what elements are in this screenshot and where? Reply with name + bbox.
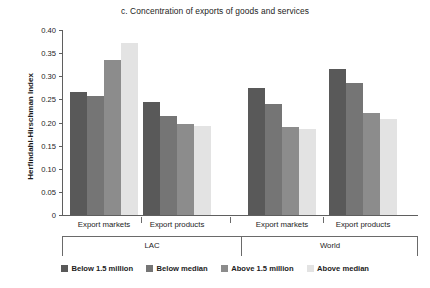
y-axis-tick-mark bbox=[59, 76, 62, 77]
bar bbox=[299, 129, 316, 215]
bar bbox=[87, 96, 104, 215]
bar bbox=[380, 119, 397, 215]
bar bbox=[265, 104, 282, 215]
legend-swatch-icon bbox=[221, 265, 228, 272]
legend-label: Below 1.5 million bbox=[71, 264, 133, 273]
legend-swatch-icon bbox=[146, 265, 153, 272]
bar bbox=[104, 60, 121, 215]
bar bbox=[248, 88, 265, 215]
x-axis-divider bbox=[323, 217, 324, 223]
y-axis-tick-mark bbox=[59, 169, 62, 170]
y-axis-tick-mark bbox=[59, 53, 62, 54]
bar bbox=[121, 43, 138, 215]
x-axis-line bbox=[62, 215, 418, 216]
y-axis-tick-label: 0.05 bbox=[2, 187, 62, 196]
legend-swatch-icon bbox=[307, 265, 314, 272]
bar bbox=[70, 92, 87, 215]
legend-item[interactable]: Below 1.5 million bbox=[61, 264, 133, 273]
chart-legend: Below 1.5 millionBelow medianAbove 1.5 m… bbox=[0, 264, 430, 273]
legend-label: Above median bbox=[317, 264, 369, 273]
bar bbox=[177, 124, 194, 215]
x-axis-divider bbox=[141, 217, 142, 223]
y-axis-tick-mark bbox=[59, 99, 62, 100]
x-axis-group-label: LAC bbox=[63, 241, 241, 250]
bar-group bbox=[143, 30, 211, 215]
x-axis-group-label: World bbox=[241, 241, 419, 250]
y-axis-tick-mark bbox=[59, 215, 62, 216]
x-axis-category-labels: Export marketsExport productsExport mark… bbox=[62, 217, 418, 237]
y-axis-tick-label: 0.25 bbox=[2, 95, 62, 104]
y-axis-tick-mark bbox=[59, 146, 62, 147]
y-axis-tick-mark bbox=[59, 30, 62, 31]
legend-item[interactable]: Below median bbox=[146, 264, 208, 273]
legend-item[interactable]: Above 1.5 million bbox=[221, 264, 294, 273]
x-axis-divider bbox=[230, 217, 231, 223]
y-axis-tick-label: 0.40 bbox=[2, 26, 62, 35]
bar bbox=[363, 113, 380, 215]
y-axis-tick-mark bbox=[59, 123, 62, 124]
y-axis-tick-label: 0.20 bbox=[2, 118, 62, 127]
y-axis-tick-mark bbox=[59, 192, 62, 193]
chart-title: c. Concentration of exports of goods and… bbox=[0, 6, 430, 16]
bar-group bbox=[70, 30, 138, 215]
x-axis-category-label: Export products bbox=[132, 220, 222, 229]
legend-label: Below median bbox=[157, 264, 208, 273]
y-axis-tick-label: 0.35 bbox=[2, 49, 62, 58]
bar bbox=[160, 116, 177, 215]
legend-label: Above 1.5 million bbox=[231, 264, 293, 273]
bar bbox=[143, 102, 160, 215]
chart-figure: c. Concentration of exports of goods and… bbox=[0, 0, 430, 288]
plot-area: 00.050.100.150.200.250.300.350.40 bbox=[62, 30, 418, 216]
legend-swatch-icon bbox=[61, 265, 68, 272]
x-axis-category-label: Export markets bbox=[237, 220, 327, 229]
bar bbox=[194, 126, 211, 215]
y-axis-tick-label: 0.15 bbox=[2, 141, 62, 150]
bar bbox=[346, 83, 363, 215]
y-axis-line bbox=[62, 30, 63, 216]
x-axis-group-separator bbox=[241, 237, 242, 256]
y-axis-tick-label: 0.10 bbox=[2, 164, 62, 173]
legend-item[interactable]: Above median bbox=[307, 264, 369, 273]
x-axis-category-label: Export products bbox=[318, 220, 408, 229]
y-axis-tick-label: 0 bbox=[2, 211, 62, 220]
x-axis-group-labels: LACWorld bbox=[62, 236, 418, 256]
bar-group bbox=[248, 30, 316, 215]
bar-group bbox=[329, 30, 397, 215]
bar bbox=[329, 69, 346, 215]
y-axis-tick-label: 0.30 bbox=[2, 72, 62, 81]
bar bbox=[282, 127, 299, 215]
